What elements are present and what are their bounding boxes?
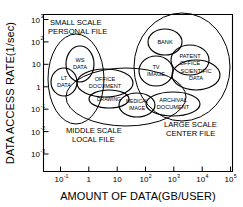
bubble-label-scientific-data-line2: DATA <box>189 75 203 81</box>
bubble-label-archival-document-line1: ARCHIVAL <box>159 97 187 103</box>
bubble-tv-image: TV IMAGE <box>139 56 173 86</box>
y-tick-label-0.1: 10 <box>31 105 40 114</box>
y-tick-exp-0.01: -2 <box>41 125 46 131</box>
bubble-office-document: OFFICE DOCUMENT <box>77 69 133 97</box>
y-axis-ticks <box>44 20 49 155</box>
x-tick-label-100: 10 <box>140 175 149 184</box>
region-label-large-scale-line2: CENTER FILE <box>166 129 215 138</box>
y-tick-label-0.01: 10 <box>31 128 40 137</box>
item-bubbles: BANK PATENT OFFICE TV IMAGE SCIENTIFIC D… <box>51 29 220 117</box>
x-tick-label-1000: 10 <box>168 175 177 184</box>
bubble-label-tv-image-line2: IMAGE <box>147 71 165 77</box>
x-tick-label-10: 10 <box>113 175 122 184</box>
data-access-rate-vs-amount-of-data-chart: 10 3 10 2 10 1 10 -1 10 -2 10 -3 10 -1 <box>0 0 243 207</box>
y-tick-exp-1000: 3 <box>41 13 44 19</box>
region-label-small-scale-line1: SMALL SCALE <box>50 18 102 27</box>
region-label-middle-scale-line1: MIDDLE SCALE <box>66 126 122 135</box>
x-tick-exp-0.1: -1 <box>64 173 69 179</box>
x-tick-label-100000: 10 <box>225 175 234 184</box>
bubble-drawing: DRAWING <box>89 90 129 108</box>
y-tick-label-1: 1 <box>36 83 41 92</box>
bubble-label-bank-line1: BANK <box>157 39 173 45</box>
bubble-label-tv-image-line1: TV <box>152 64 159 70</box>
x-tick-label-1: 1 <box>87 175 92 184</box>
y-tick-exp-100: 2 <box>41 35 44 41</box>
x-axis-ticks <box>61 167 231 172</box>
x-axis-title: AMOUNT OF DATA(GB/USER) <box>60 190 216 202</box>
bubble-label-patent-office-line1: PATENT <box>179 53 201 59</box>
bubble-label-ws-data-line2: DATA <box>73 64 87 70</box>
region-label-middle-scale-line2: LOCAL FILE <box>72 135 115 144</box>
region-label-large-scale-line1: LARGE SCALE <box>164 120 217 129</box>
bubble-label-lt-data-line1: LT <box>61 75 68 81</box>
y-tick-exp-0.1: -1 <box>41 103 46 109</box>
y-tick-label-100: 10 <box>31 38 40 47</box>
bubble-archival-document: ARCHIVAL DOCUMENT <box>146 92 200 116</box>
bubble-label-archival-document-line2: DOCUMENT <box>157 104 190 110</box>
x-tick-label-10000: 10 <box>196 175 205 184</box>
y-tick-exp-0.001: -3 <box>41 148 46 154</box>
region-label-small-scale-line2: PERSONAL FILE <box>48 27 107 36</box>
x-tick-label-0.1: 10 <box>55 175 64 184</box>
bubble-label-scientific-data-line1: SCIENTIFIC <box>180 68 211 74</box>
x-axis-tick-labels: 10 -1 1 10 10 2 10 3 10 4 10 5 <box>55 173 237 184</box>
bubble-label-lt-data-line2: DATA <box>57 82 71 88</box>
y-axis-title: DATA ACCESS RATE(1/sec) <box>4 22 16 164</box>
x-tick-exp-100: 2 <box>149 173 152 179</box>
x-tick-exp-10000: 4 <box>206 173 209 179</box>
x-tick-exp-1000: 3 <box>177 173 180 179</box>
y-tick-label-10: 10 <box>32 60 41 69</box>
y-tick-label-0.001: 10 <box>31 150 40 159</box>
bubble-bank: BANK <box>148 29 182 55</box>
bubble-lt-data: LT DATA <box>51 68 77 96</box>
bubble-label-medical-image-line2: IMAGE <box>129 105 146 111</box>
x-tick-exp-100000: 5 <box>234 173 237 179</box>
bubble-label-office-document-line1: OFFICE <box>95 76 116 82</box>
bubble-label-office-document-line2: DOCUMENT <box>89 83 122 89</box>
y-tick-label-1000: 10 <box>31 16 40 25</box>
bubble-label-ws-data-line1: WS <box>75 57 84 63</box>
